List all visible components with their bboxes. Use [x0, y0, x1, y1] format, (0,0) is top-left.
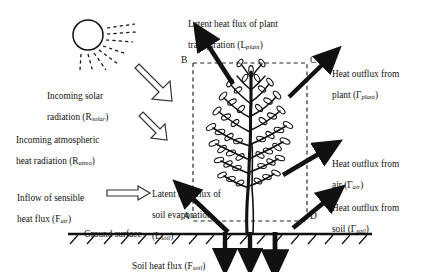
sun-icon [73, 20, 103, 50]
label-heat-outflux-air: Heat outflux from air (Γair) [332, 148, 422, 193]
sensible-line2-pre: heat flux (F [17, 214, 60, 224]
label-incoming-atmospheric-radiation: Incoming atmospheric heat radiation (Rat… [16, 124, 144, 169]
corner-d-text: D [310, 211, 317, 221]
label-ground-surface: Ground surface [84, 218, 194, 239]
latentplant-line2-post: ) [260, 40, 263, 50]
atmo-subscript: atmo [78, 159, 91, 166]
soilflux-subscript: soil [193, 264, 203, 271]
corner-b-text: B [181, 55, 187, 65]
latentsoil-line1: Latent heat flux of [152, 189, 221, 199]
label-heat-outflux-soil: Heat outflux from soil (Γsoil) [332, 192, 422, 237]
corner-label-a: A [183, 211, 190, 221]
outsoil-line2-pre: soil (Γ [332, 224, 356, 234]
outplant-line2-post: ) [375, 90, 378, 100]
incoming-solar-radiation-arrow [135, 64, 172, 101]
atmo-line2-post: ) [92, 156, 95, 166]
outsoil-line1: Heat outflux from [332, 203, 399, 213]
outplant-line1: Heat outflux from [332, 69, 399, 79]
outair-line2-pre: air (Γ [332, 180, 353, 190]
solar-subscript: solar [92, 115, 106, 122]
corner-label-c: C [310, 55, 316, 65]
corner-label-b: B [181, 55, 187, 65]
atmo-line1: Incoming atmospheric [16, 135, 99, 145]
corner-c-text: C [310, 55, 316, 65]
soilflux-post: ) [202, 261, 205, 271]
label-latent-heat-plant-transpiration: Latent heat flux of plant transpiration … [188, 8, 316, 53]
outsoil-subscript: soil [356, 227, 366, 234]
sensible-line1: Inflow of sensible [17, 193, 84, 203]
corner-a-text: A [183, 211, 190, 221]
label-incoming-solar-radiation: Incoming solar radiation (Rsolar) [47, 80, 133, 125]
solar-line1: Incoming solar [47, 91, 103, 101]
solar-line2-post: ) [105, 112, 108, 122]
ground-surface-text: Ground surface [84, 229, 142, 239]
outair-line2-post: ) [360, 180, 363, 190]
latentplant-line1: Latent heat flux of plant [188, 19, 278, 29]
sensible-heat-inflow-arrow [107, 186, 150, 200]
outair-line1: Heat outflux from [332, 159, 399, 169]
solar-rays [80, 24, 136, 72]
figure-canvas: Incoming solar radiation (Rsolar) Incomi… [0, 0, 428, 272]
heat-outflux-air-arrow [283, 152, 322, 175]
sensible-subscript: air [60, 217, 68, 224]
outplant-line2-pre: plant (Γ [332, 90, 361, 100]
label-soil-heat-flux: Soil heat flux (Fsoil) [132, 250, 262, 272]
outsoil-line2-post: ) [366, 224, 369, 234]
outplant-subscript: plant [361, 93, 375, 100]
label-heat-outflux-plant: Heat outflux from plant (Γplant) [332, 58, 422, 103]
corner-label-d: D [310, 211, 317, 221]
latentplant-line2-pre: transpiration (L [188, 40, 246, 50]
sensible-line2-post: ) [68, 214, 71, 224]
soilflux-pre: Soil heat flux (F [132, 261, 193, 271]
latentplant-subscript: plant [246, 43, 260, 50]
atmo-line2-pre: heat radiation (R [16, 156, 78, 166]
solar-line2-pre: radiation (R [47, 112, 92, 122]
